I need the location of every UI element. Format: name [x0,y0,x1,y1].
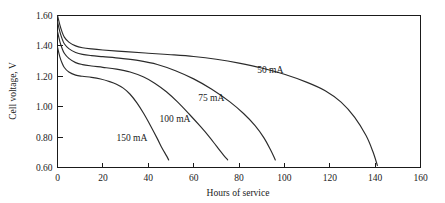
y-tick-label: 1.20 [36,72,53,82]
y-tick-label: 1.00 [36,102,53,112]
x-tick-label: 60 [189,173,199,183]
axis-ticks [58,16,421,168]
x-tick-label: 20 [98,173,108,183]
x-tick-label: 140 [368,173,383,183]
x-tick-label: 120 [323,173,338,183]
y-tick-label: 0.60 [36,163,53,173]
y-tick-label: 1.40 [36,41,53,51]
chart-figure: 020406080100120140160 0.600.801.001.201.… [0,0,445,203]
x-tick-label: 40 [144,173,154,183]
y-tick-labels: 0.600.801.001.201.401.60 [36,11,53,173]
y-tick-label: 1.60 [36,11,53,21]
plot-frame [58,16,421,168]
series-label-75-ma: 75 mA [198,93,224,103]
x-tick-label: 160 [413,173,428,183]
x-tick-label: 0 [55,173,60,183]
discharge-curve-chart: 020406080100120140160 0.600.801.001.201.… [0,0,445,203]
y-axis-title: Cell voltage, V [8,62,18,120]
series-label-50-ma: 50 mA [257,65,283,75]
x-axis-title: Hours of service [207,188,270,198]
series-label-150-ma: 150 mA [116,133,147,143]
series-curve [58,16,378,166]
x-tick-label: 100 [277,173,292,183]
x-tick-labels: 020406080100120140160 [55,173,428,183]
series-curve [58,47,169,160]
series-label-100-ma: 100 mA [160,114,191,124]
y-tick-label: 0.80 [36,133,53,143]
series-curve [58,22,276,160]
x-tick-label: 80 [234,173,244,183]
series-curves [58,16,378,166]
